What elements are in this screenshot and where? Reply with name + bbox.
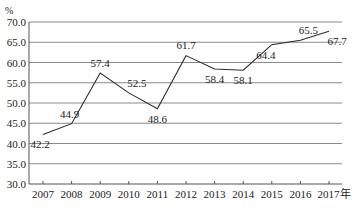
line-chart: % 30.035.040.045.050.055.060.065.070.0 2… <box>0 0 356 212</box>
data-point-label: 58.4 <box>205 73 225 85</box>
x-tick-label: 2009 <box>89 188 112 200</box>
chart-canvas: % 30.035.040.045.050.055.060.065.070.0 2… <box>0 0 356 212</box>
y-tick-label: 35.0 <box>7 158 27 170</box>
x-tick-label: 2014 <box>232 188 255 200</box>
y-tick-label: 65.0 <box>7 36 27 48</box>
x-tick-label: 2016 <box>289 188 312 200</box>
data-point-label: 44.9 <box>60 108 80 120</box>
x-tick-label: 2011 <box>147 188 169 200</box>
data-point-label: 58.1 <box>234 74 253 86</box>
x-tick-label: 2010 <box>118 188 141 200</box>
data-point-label: 42.2 <box>30 138 49 150</box>
data-point-label: 64.4 <box>256 49 276 61</box>
data-point-label: 65.5 <box>299 24 319 36</box>
data-point-label: 61.7 <box>176 39 196 51</box>
y-tick-label: 45.0 <box>7 117 27 129</box>
data-labels: 42.244.957.452.548.661.758.458.164.465.5… <box>30 24 347 149</box>
data-point-label: 67.7 <box>327 35 347 47</box>
y-axis-ticks: 30.035.040.045.050.055.060.065.070.0 <box>7 16 27 190</box>
x-tick-label: 2013 <box>204 188 227 200</box>
data-point-label: 52.5 <box>127 77 147 89</box>
y-tick-label: 40.0 <box>7 138 27 150</box>
y-tick-label: 50.0 <box>7 97 27 109</box>
y-axis-unit-label: % <box>5 5 13 16</box>
x-tick-label: 2015 <box>261 188 284 200</box>
x-tick-label: 2017年 <box>318 187 351 200</box>
x-tick-label: 2007 <box>32 188 55 200</box>
x-tick-label: 2012 <box>175 188 197 200</box>
x-tick-label: 2008 <box>61 188 84 200</box>
y-tick-label: 70.0 <box>7 16 27 28</box>
y-tick-label: 60.0 <box>7 57 27 69</box>
data-point-label: 48.6 <box>148 113 168 125</box>
y-tick-label: 30.0 <box>7 178 27 190</box>
data-point-label: 57.4 <box>91 57 111 69</box>
y-tick-label: 55.0 <box>7 77 27 89</box>
